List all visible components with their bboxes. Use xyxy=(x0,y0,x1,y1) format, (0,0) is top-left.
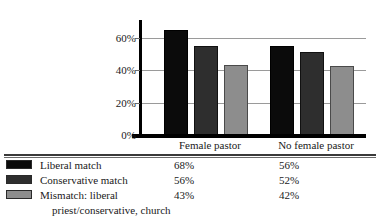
legend-swatch-liberal-match xyxy=(6,160,32,169)
y-axis-tick-labels: 60% 40% 20% 0% xyxy=(96,22,136,135)
value-liberal-match-no-female-pastor: 56% xyxy=(254,158,324,172)
legend-value-table: Liberal match 68% 56% Conservative match… xyxy=(4,154,376,218)
table-row: Conservative match 56% 52% xyxy=(4,173,376,188)
chart-figure: 60% 40% 20% 0% Female pastor No female p… xyxy=(0,0,380,219)
legend-label-conservative-match: Conservative match xyxy=(40,173,128,187)
bar-conservative-match-no-female-pastor xyxy=(300,52,324,135)
y-tick-label-20: 20% xyxy=(100,98,136,109)
table-row: Liberal match 68% 56% xyxy=(4,158,376,173)
table-rule-top xyxy=(4,154,376,156)
legend-label-mismatch-continuation: priest/conservative, church xyxy=(52,203,171,217)
bar-liberal-match-no-female-pastor xyxy=(270,46,294,135)
table-column-headers: Female pastor No female pastor xyxy=(4,138,376,152)
value-conservative-match-no-female-pastor: 52% xyxy=(254,173,324,187)
value-mismatch-no-female-pastor: 42% xyxy=(254,188,324,202)
bar-group-no-female-pastor xyxy=(266,22,366,135)
bar-group-female-pastor xyxy=(160,22,260,135)
legend-swatch-conservative-match xyxy=(6,175,32,184)
legend-label-mismatch: Mismatch: liberal xyxy=(40,188,118,202)
bar-liberal-match-female-pastor xyxy=(164,30,188,135)
legend-swatch-mismatch xyxy=(6,190,32,199)
bar-mismatch-female-pastor xyxy=(224,65,248,135)
legend-label-liberal-match: Liberal match xyxy=(40,158,101,172)
value-conservative-match-female-pastor: 56% xyxy=(149,173,219,187)
value-mismatch-female-pastor: 43% xyxy=(149,188,219,202)
y-tick-label-40: 40% xyxy=(100,65,136,76)
bar-mismatch-no-female-pastor xyxy=(330,66,354,135)
plot-area xyxy=(140,22,366,135)
table-row: Mismatch: liberal 43% 42% xyxy=(4,188,376,203)
bar-conservative-match-female-pastor xyxy=(194,46,218,135)
y-tick-label-60: 60% xyxy=(100,33,136,44)
value-liberal-match-female-pastor: 68% xyxy=(149,158,219,172)
table-row-continuation: priest/conservative, church xyxy=(4,203,376,218)
